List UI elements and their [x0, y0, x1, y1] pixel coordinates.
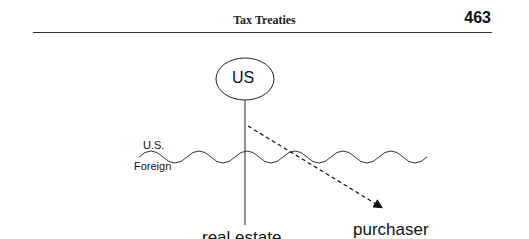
border-wave: [139, 151, 427, 163]
real-estate-label: real estate: [202, 228, 281, 239]
ownership-diagram: [0, 0, 529, 239]
purchaser-label: purchaser: [353, 220, 429, 239]
region-label-foreign: Foreign: [134, 160, 171, 172]
region-label-us: U.S.: [143, 139, 164, 151]
us-node-label: US: [232, 69, 254, 87]
sale-arrow: [248, 126, 381, 207]
